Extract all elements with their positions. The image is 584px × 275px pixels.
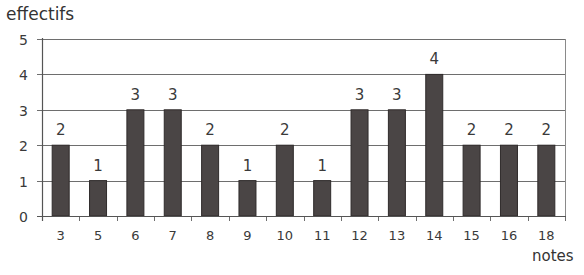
x-tick-label: 11 bbox=[314, 228, 331, 243]
data-label: 1 bbox=[317, 157, 327, 175]
bar bbox=[164, 110, 181, 216]
bar bbox=[463, 145, 480, 216]
x-tick-label: 12 bbox=[351, 228, 368, 243]
data-label: 2 bbox=[504, 121, 514, 139]
x-tick-label: 5 bbox=[94, 228, 102, 243]
y-axis-label: effectifs bbox=[6, 4, 74, 24]
data-label: 4 bbox=[429, 50, 439, 68]
data-label: 3 bbox=[131, 86, 141, 104]
x-tick-label: 9 bbox=[243, 228, 251, 243]
bar bbox=[426, 74, 443, 216]
bar bbox=[388, 110, 405, 216]
data-label: 2 bbox=[467, 121, 477, 139]
plot-area: 0123452315363728192101113123134142152162… bbox=[0, 0, 584, 275]
data-label: 1 bbox=[93, 157, 103, 175]
data-label: 2 bbox=[205, 121, 215, 139]
bar bbox=[127, 110, 144, 216]
data-label: 2 bbox=[280, 121, 290, 139]
data-label: 3 bbox=[392, 86, 402, 104]
x-tick-label: 15 bbox=[463, 228, 480, 243]
bar bbox=[500, 145, 517, 216]
y-tick-label: 4 bbox=[19, 67, 28, 83]
data-label: 2 bbox=[542, 121, 552, 139]
x-tick-label: 7 bbox=[169, 228, 177, 243]
x-tick-label: 16 bbox=[501, 228, 518, 243]
y-tick-label: 3 bbox=[19, 103, 28, 119]
x-tick-label: 3 bbox=[57, 228, 65, 243]
data-label: 3 bbox=[168, 86, 178, 104]
x-tick-label: 14 bbox=[426, 228, 443, 243]
x-tick-label: 8 bbox=[206, 228, 214, 243]
x-tick-label: 10 bbox=[277, 228, 294, 243]
y-tick-label: 0 bbox=[19, 209, 28, 225]
bar bbox=[239, 181, 256, 216]
x-tick-label: 13 bbox=[389, 228, 406, 243]
data-label: 2 bbox=[56, 121, 66, 139]
x-tick-label: 18 bbox=[538, 228, 555, 243]
data-label: 3 bbox=[355, 86, 365, 104]
bar bbox=[202, 145, 219, 216]
y-tick-label: 2 bbox=[19, 138, 28, 154]
y-tick-label: 1 bbox=[19, 174, 28, 190]
bar bbox=[538, 145, 555, 216]
x-axis-label: notes bbox=[532, 247, 574, 265]
bar bbox=[52, 145, 69, 216]
bar bbox=[314, 181, 331, 216]
bar bbox=[90, 181, 107, 216]
x-tick-label: 6 bbox=[131, 228, 139, 243]
bar bbox=[351, 110, 368, 216]
bar-chart: effectifs 012345231536372819210111312313… bbox=[0, 0, 584, 275]
y-tick-label: 5 bbox=[19, 32, 28, 48]
data-label: 1 bbox=[243, 157, 253, 175]
bar bbox=[276, 145, 293, 216]
